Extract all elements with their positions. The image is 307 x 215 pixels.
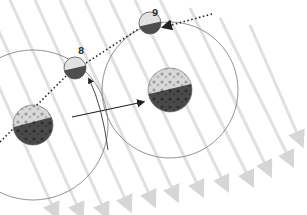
moon-9 [137, 12, 163, 37]
moon-label-8: 8 [78, 47, 84, 56]
moon-label-9: 9 [152, 9, 158, 18]
diagram-canvas [0, 0, 307, 215]
moon-8 [62, 57, 88, 82]
